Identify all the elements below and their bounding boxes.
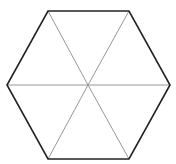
hexagon-spokes bbox=[7, 11, 170, 159]
spoke-line-3 bbox=[88, 85, 129, 159]
spoke-line-4 bbox=[48, 85, 88, 159]
spoke-line-0 bbox=[48, 11, 88, 85]
spoke-line-1 bbox=[88, 11, 129, 85]
hexagon-diagram bbox=[0, 0, 176, 164]
